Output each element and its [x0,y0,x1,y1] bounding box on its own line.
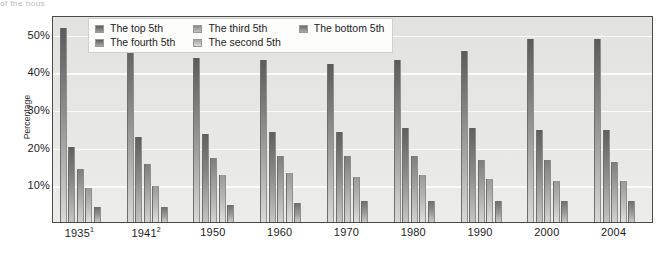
legend-swatch-icon-2 [193,25,202,33]
y-tick-label-30: 30% [6,104,50,116]
x-tick-label-1990: 1990 [467,226,492,238]
bar-1960-series-1 [269,132,276,222]
bar-1950-series-2 [210,158,217,222]
x-tick-label-1960: 1960 [267,226,292,238]
bar-1970-series-4 [361,201,368,222]
bar-1950-series-1 [202,134,209,222]
legend-item-4[interactable]: The bottom 5th [299,22,385,35]
bar-1970-series-2 [344,156,351,222]
bar-2004-series-1 [603,130,610,222]
bar-1935-series-3 [85,188,92,222]
bar-1941-series-4 [161,207,168,222]
legend-label-1: The fourth 5th [110,36,175,49]
bar-group-2000 [527,17,568,222]
bar-1935-series-0 [60,28,67,222]
legend-swatch-icon-4 [299,25,308,33]
bar-1960-series-4 [294,203,301,222]
bar-1970-series-1 [336,132,343,222]
bar-1941-series-0 [127,38,134,222]
y-tick-label-20: 20% [6,142,50,154]
bar-1980-series-1 [402,128,409,222]
bar-group-2004 [594,17,635,222]
bar-1990-series-0 [461,51,468,222]
legend-label-0: The top 5th [110,22,163,35]
bar-1960-series-3 [286,173,293,222]
bar-2000-series-3 [553,181,560,222]
bar-1941-series-3 [152,186,159,222]
x-tick-footnote-marker: 1 [90,226,94,233]
legend-swatch-icon-1 [95,39,104,47]
chart-legend: The top 5thThe fourth 5thThe third 5thTh… [88,18,393,53]
x-tick-label-1970: 1970 [334,226,359,238]
bar-1935-series-2 [77,169,84,222]
bar-2000-series-2 [544,160,551,222]
bar-1970-series-0 [327,64,334,222]
bar-1950-series-4 [227,205,234,222]
bar-2000-series-1 [536,130,543,222]
legend-item-0[interactable]: The top 5th [95,22,175,35]
bar-1980-series-4 [428,201,435,222]
bar-1980-series-2 [411,156,418,222]
bar-2000-series-4 [561,201,568,222]
bar-1990-series-1 [469,128,476,222]
x-tick-footnote-marker: 2 [157,226,161,233]
bar-1960-series-0 [260,60,267,222]
bar-1990-series-4 [495,201,502,222]
x-tick-label-1935: 19351 [65,226,94,239]
bar-1941-series-1 [135,137,142,222]
legend-label-2: The third 5th [208,22,267,35]
legend-item-3[interactable]: The second 5th [193,36,280,49]
x-tick-label-1980: 1980 [401,226,426,238]
bar-2004-series-3 [620,181,627,222]
bar-2000-series-0 [527,39,534,222]
x-tick-label-2000: 2000 [534,226,559,238]
bar-group-1980 [394,17,435,222]
bar-1970-series-3 [353,177,360,222]
bar-1980-series-0 [394,60,401,222]
legend-swatch-icon-0 [95,25,104,33]
bar-group-1990 [461,17,502,222]
legend-label-3: The second 5th [208,36,280,49]
x-tick-label-1950: 1950 [200,226,225,238]
bar-1990-series-2 [478,160,485,222]
bar-1960-series-2 [277,156,284,222]
bar-1990-series-3 [486,179,493,222]
legend-item-1[interactable]: The fourth 5th [95,36,175,49]
x-axis: 19351194121950196019701980199020002004 [52,226,653,250]
bar-1935-series-1 [68,147,75,222]
bar-1980-series-3 [419,175,426,222]
bar-2004-series-2 [611,162,618,222]
cropped-title-sliver: of the hous [0,0,672,7]
legend-swatch-icon-3 [193,39,202,47]
y-tick-label-10: 10% [6,179,50,191]
bar-1950-series-0 [193,58,200,222]
y-tick-label-50: 50% [6,29,50,41]
y-tick-label-40: 40% [6,66,50,78]
bar-chart-figure: of the hous Percentage 10%20%30%40%50% 1… [0,0,672,256]
bar-2004-series-0 [594,39,601,222]
x-tick-label-1941: 19412 [131,226,160,239]
bar-1941-series-2 [144,164,151,222]
legend-label-4: The bottom 5th [314,22,385,35]
y-axis: Percentage 10%20%30%40%50% [0,0,50,256]
bar-2004-series-4 [628,201,635,222]
bar-1935-series-4 [94,207,101,222]
legend-item-2[interactable]: The third 5th [193,22,280,35]
bar-1950-series-3 [219,175,226,222]
x-tick-label-2004: 2004 [601,226,626,238]
